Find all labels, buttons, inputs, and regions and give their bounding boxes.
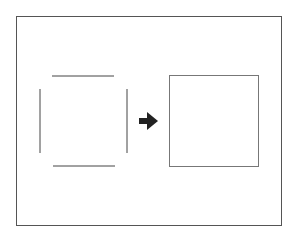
closed-square xyxy=(170,76,259,167)
diagram-canvas xyxy=(0,0,294,237)
